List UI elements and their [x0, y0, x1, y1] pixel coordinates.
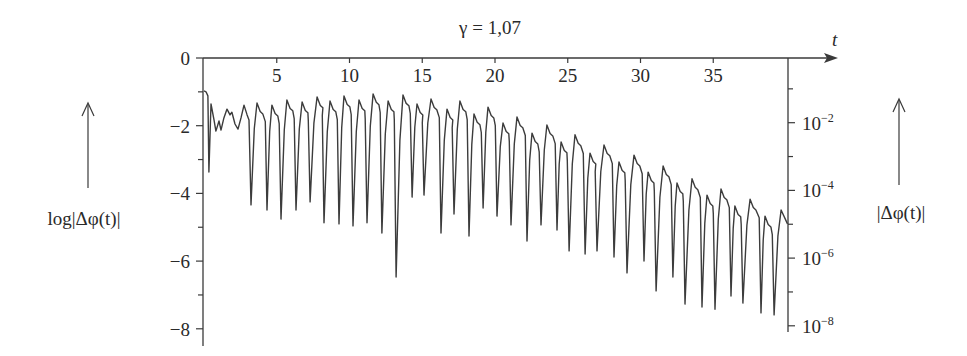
- right-tick-label: 10−4: [802, 178, 834, 201]
- left-y-ticks: 0−2−4−6−8: [170, 48, 203, 340]
- left-tick-label: 0: [181, 48, 191, 69]
- right-tick-label: 10−8: [802, 314, 834, 337]
- left-tick-label: −8: [170, 319, 190, 340]
- x-tick-label: 30: [631, 65, 650, 86]
- data-series-line: [204, 91, 788, 315]
- left-y-axis-label: log|Δφ(t)|: [47, 208, 120, 230]
- x-tick-label: 10: [340, 65, 359, 86]
- x-axis-label: t: [832, 29, 838, 50]
- left-tick-label: −6: [170, 251, 190, 272]
- x-tick-label: 5: [272, 65, 282, 86]
- right-tick-label: 10−6: [802, 246, 834, 269]
- right-y-ticks: 10−210−410−610−8: [788, 89, 834, 337]
- x-tick-label: 20: [486, 65, 505, 86]
- chart-figure: γ = 1,07 t 0−2−4−6−8 5101520253035 10−21…: [0, 0, 967, 356]
- x-ticks: 5101520253035: [272, 58, 723, 86]
- left-tick-label: −2: [170, 116, 190, 137]
- chart-title: γ = 1,07: [458, 17, 521, 38]
- right-tick-label: 10−2: [802, 111, 834, 134]
- x-tick-label: 35: [704, 65, 723, 86]
- right-y-axis-label: |Δφ(t)|: [877, 202, 926, 224]
- x-tick-label: 15: [413, 65, 432, 86]
- left-tick-label: −4: [170, 183, 191, 204]
- x-tick-label: 25: [558, 65, 577, 86]
